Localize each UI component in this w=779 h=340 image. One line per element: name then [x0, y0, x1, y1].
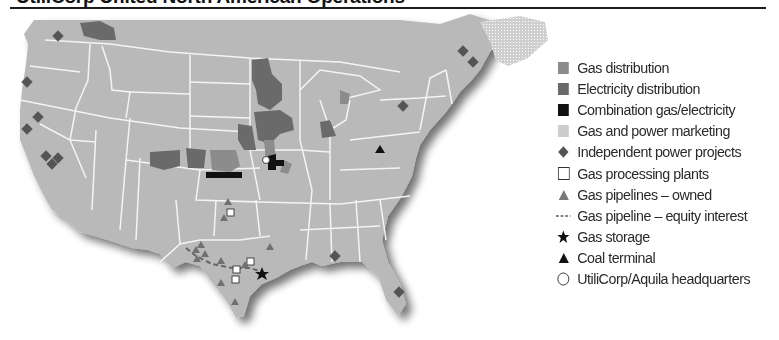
- dashed-line-icon: [556, 208, 571, 224]
- legend-electricity-distribution: Electricity distribution: [556, 78, 761, 99]
- black-square-icon: [556, 102, 571, 118]
- diamond-icon: [556, 144, 571, 160]
- legend-pipeline-equity: Gas pipeline – equity interest: [556, 205, 761, 226]
- legend-label: Gas pipeline – equity interest: [577, 207, 747, 225]
- legend-label: Gas distribution: [577, 59, 669, 77]
- light-gray-square-icon: [556, 123, 571, 139]
- legend-label: Independent power projects: [577, 143, 741, 161]
- legend-headquarters: UtiliCorp/Aquila headquarters: [556, 269, 761, 290]
- outline-square-icon: [556, 166, 571, 182]
- black-triangle-icon: [556, 250, 571, 266]
- legend-label: UtiliCorp/Aquila headquarters: [577, 270, 750, 288]
- legend-gas-distribution: Gas distribution: [556, 57, 761, 78]
- legend-label: Combination gas/electricity: [577, 101, 735, 119]
- legend-marketing: Gas and power marketing: [556, 121, 761, 142]
- map-legend: Gas distribution Electricity distributio…: [556, 57, 779, 290]
- legend-label: Gas storage: [577, 228, 650, 246]
- legend-combination: Combination gas/electricity: [556, 99, 761, 120]
- legend-label: Electricity distribution: [577, 80, 700, 98]
- star-icon: [556, 229, 571, 245]
- headquarters-circle: [263, 157, 270, 164]
- us-operations-map: [0, 10, 560, 340]
- legend-label: Gas and power marketing: [577, 122, 730, 140]
- title-rule: [10, 7, 766, 9]
- legend-pipelines-owned: Gas pipelines – owned: [556, 184, 761, 205]
- legend-coal-terminal: Coal terminal: [556, 248, 761, 269]
- legend-label: Coal terminal: [577, 249, 655, 267]
- legend-independent-power: Independent power projects: [556, 142, 761, 163]
- legend-label: Gas processing plants: [577, 165, 708, 183]
- legend-label: Gas pipelines – owned: [577, 186, 712, 204]
- legend-gas-storage: Gas storage: [556, 227, 761, 248]
- legend-gas-processing: Gas processing plants: [556, 163, 761, 184]
- canada-maritimes: [480, 16, 548, 66]
- dark-gray-square-icon: [556, 81, 571, 97]
- gray-triangle-icon: [556, 187, 571, 203]
- circle-outline-icon: [556, 271, 571, 287]
- gray-square-icon: [556, 60, 571, 76]
